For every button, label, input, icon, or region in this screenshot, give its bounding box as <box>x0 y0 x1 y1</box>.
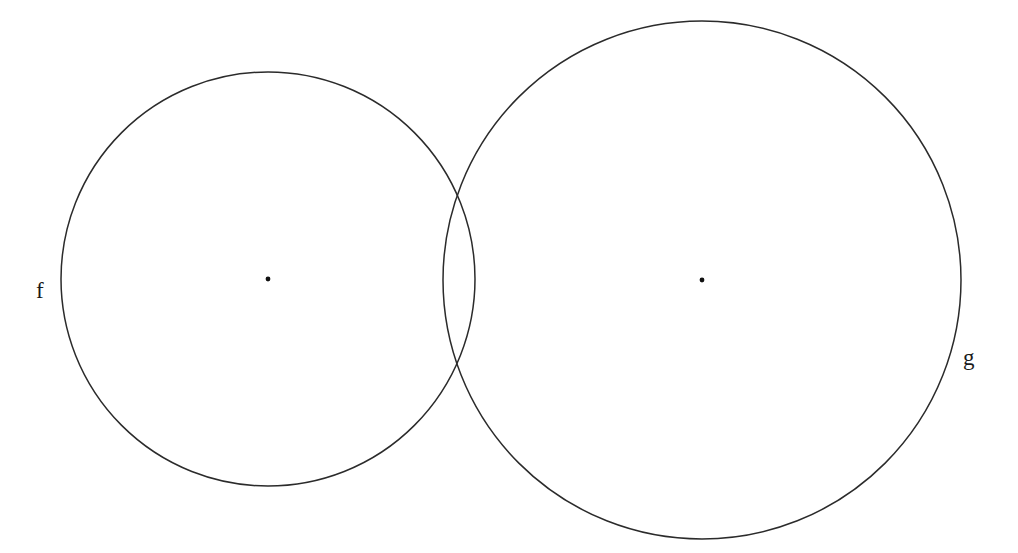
diagram-svg: f g <box>0 0 1018 553</box>
circle-label-f: f <box>36 278 44 303</box>
geometry-diagram-canvas: f g <box>0 0 1018 553</box>
center-dot-f <box>266 277 271 282</box>
center-dot-g <box>700 278 705 283</box>
circle-label-g: g <box>963 345 975 370</box>
